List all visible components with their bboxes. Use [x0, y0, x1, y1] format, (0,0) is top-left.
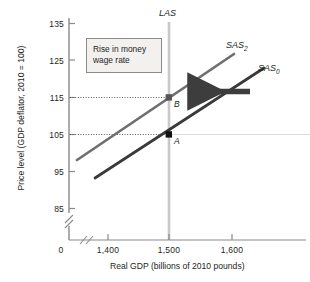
sas0-label-subscript: 0 — [276, 68, 280, 75]
point-label-a: A — [174, 136, 180, 146]
x-tick-label-1600: 1,600 — [215, 245, 249, 255]
y-tick-label-95: 95 — [40, 167, 64, 177]
y-tick-label-85: 85 — [40, 204, 64, 214]
x-axis-title: Real GDP (billions of 2010 pounds) — [110, 261, 245, 271]
sas0-label-text: SAS — [258, 63, 276, 73]
las-curve-label: LAS — [159, 8, 176, 18]
y-tick-label-115: 115 — [40, 93, 64, 103]
x-tick-label-1500: 1,500 — [152, 245, 186, 255]
sas2-label-subscript: 2 — [244, 45, 248, 52]
sas2-label-text: SAS — [226, 40, 244, 50]
economics-chart-figure: 135 125 115 105 95 85 0 1,400 1,500 1,60… — [0, 0, 310, 282]
x-tick-label-origin: 0 — [52, 245, 70, 255]
sas0-curve[interactable] — [95, 68, 264, 178]
point-marker-a[interactable] — [166, 131, 172, 137]
y-tick-label-135: 135 — [40, 19, 64, 29]
point-label-b: B — [174, 99, 180, 109]
sas2-curve-label: SAS2 — [226, 40, 248, 52]
y-axis-title: Price level (GDP deflator, 2010 = 100) — [16, 23, 26, 213]
y-tick-label-125: 125 — [40, 56, 64, 66]
sas0-curve-label: SAS0 — [258, 63, 280, 75]
x-tick-label-1400: 1,400 — [91, 245, 125, 255]
point-marker-b[interactable] — [166, 94, 172, 100]
y-tick-label-105: 105 — [40, 130, 64, 140]
annotation-box-rise-in-money-wage-rate: Rise in money wage rate — [86, 38, 162, 73]
